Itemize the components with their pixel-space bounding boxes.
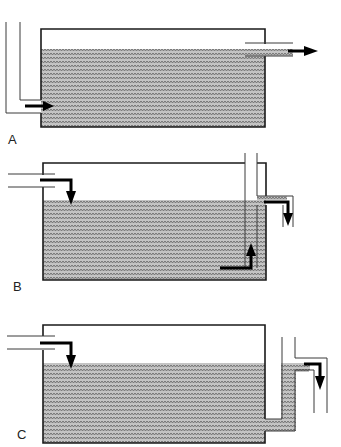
tank-wall-b <box>43 163 245 175</box>
panel-label-b: B <box>13 279 22 294</box>
panel-label-a: A <box>8 132 17 147</box>
tank-wall-b-top-right <box>257 163 266 196</box>
panel-label-c: C <box>17 427 26 442</box>
panel-a: A <box>6 22 318 147</box>
u-tube-water-c <box>265 363 309 431</box>
inlet-pipe-a <box>6 22 41 113</box>
tank-flow-diagram: A B <box>0 0 341 447</box>
u-tube-inner-c <box>265 337 282 419</box>
water-body-c <box>43 363 265 443</box>
outflow-arrow-b <box>264 202 293 226</box>
water-body-a <box>41 49 265 127</box>
outlet-water-b <box>257 196 287 200</box>
panel-b: B <box>8 153 293 294</box>
panel-c: C <box>7 325 327 443</box>
inlet-pipe-a-inner <box>20 22 41 100</box>
u-tube-top-c <box>295 337 327 413</box>
